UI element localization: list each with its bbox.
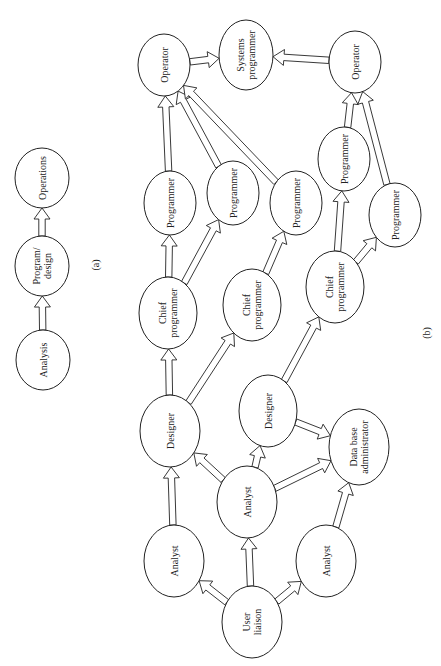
node-a-operations: Operations [15,148,69,208]
node-label: Data baseadministrator [348,420,370,474]
node-chief3: Chiefprogrammer [306,251,364,323]
flow-arrow [333,191,349,252]
flow-arrow [161,235,177,277]
node-label: Designer [165,412,176,449]
node-an3: Analyst [296,525,356,597]
flow-arrow [273,458,331,491]
node-label: Operator [350,44,361,80]
node-label: Analyst [242,486,253,517]
flow-arrow [190,52,220,68]
flow-arrow [275,581,302,604]
node-des2: Designer [239,375,297,447]
node-ul: Userliaison [222,586,282,658]
node-label: Analysis [38,342,49,377]
node-an2: Analyst [217,466,277,538]
flow-arrow [250,446,266,468]
flow-arrow [186,333,235,404]
node-dba: Data baseadministrator [329,409,389,485]
node-an1: Analyst [144,525,204,597]
node-label: Programmer [228,167,239,218]
flow-arrow [295,419,331,439]
flow-arrow [161,349,177,395]
flow-arrow [158,96,174,171]
node-prog3: Programmer [270,171,322,235]
node-label: Programmer [291,177,302,228]
flow-arrow [342,93,358,128]
flow-arrow [163,467,179,525]
flow-arrow [263,231,287,274]
node-prog1: Programmer [144,171,196,235]
node-des1: Designer [140,395,200,467]
node-label: Operations [37,156,48,200]
flow-arrow [199,581,229,605]
node-label: Designer [263,392,274,429]
node-label: Programmer [165,177,176,228]
node-a-analysis: Analysis [16,330,70,390]
flow-arrow [34,208,50,236]
node-prog2: Programmer [207,161,259,225]
flow-arrow [194,453,226,483]
flow-arrow [181,220,220,285]
node-label: Userliaison [241,609,263,636]
node-label: Analyst [321,545,332,576]
node-op2: Operator [329,31,381,93]
node-label: Programmer [390,189,401,240]
node-label: Programmer [339,133,350,184]
node-a-program-design: Program/design [15,236,69,296]
node-op1: Operator [138,34,190,96]
node-chief2: Chiefprogrammer [223,269,281,341]
flow-arrow [281,317,320,383]
panel-b-caption: (b) [421,327,433,339]
flow-arrow [34,296,50,330]
node-label: Operator [159,47,170,83]
node-prog4: Programmer [318,127,370,191]
node-sysprog: Systemsprogrammer [219,20,273,90]
node-chief1: Chiefprogrammer [139,277,197,349]
node-prog5: Programmer [369,183,421,247]
flow-arrow [241,538,257,586]
flow-arrow [333,483,354,528]
node-label: Analyst [169,545,180,576]
flow-arrow [273,50,329,66]
nodes-layer: AnalysisProgram/designOperationsOperator… [15,20,421,658]
panel-a-caption: (a) [90,259,102,270]
flow-arrow [353,237,376,264]
diagram-canvas: AnalysisProgram/designOperationsOperator… [0,0,441,666]
